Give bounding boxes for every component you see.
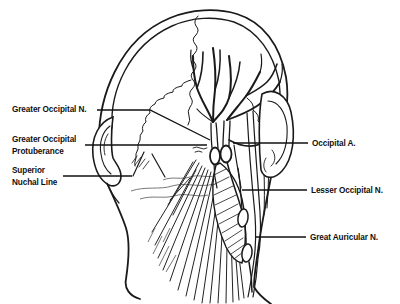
label-greater-occipital-protuberance-line2: Protuberance — [12, 147, 64, 156]
label-superior-nuchal-line-line2: Nuchal Line — [12, 178, 58, 187]
mastoid-region — [132, 152, 165, 177]
occipital-protuberance-marks — [193, 147, 207, 152]
label-greater-occipital-n: Greater Occipital N. — [12, 105, 86, 114]
label-superior-nuchal-line-line1: Superior — [12, 166, 46, 175]
label-greater-occipital-protuberance-line1: Greater Occipital — [12, 135, 76, 144]
left-ear — [93, 117, 121, 203]
leader-greater-occipital-n — [97, 110, 210, 140]
nerve-trunk-bulbs — [210, 121, 232, 165]
label-lesser-occipital-n: Lesser Occipital N. — [311, 186, 383, 195]
lambdoid-suture — [135, 80, 266, 166]
label-occipital-a: Occipital A. — [312, 139, 356, 148]
label-great-auricular-n: Great Auricular N. — [310, 233, 378, 242]
anatomy-figure: Greater Occipital N. Greater Occipital P… — [0, 0, 400, 304]
anatomy-diagram: Greater Occipital N. Greater Occipital P… — [0, 0, 400, 304]
right-ear — [259, 91, 293, 177]
